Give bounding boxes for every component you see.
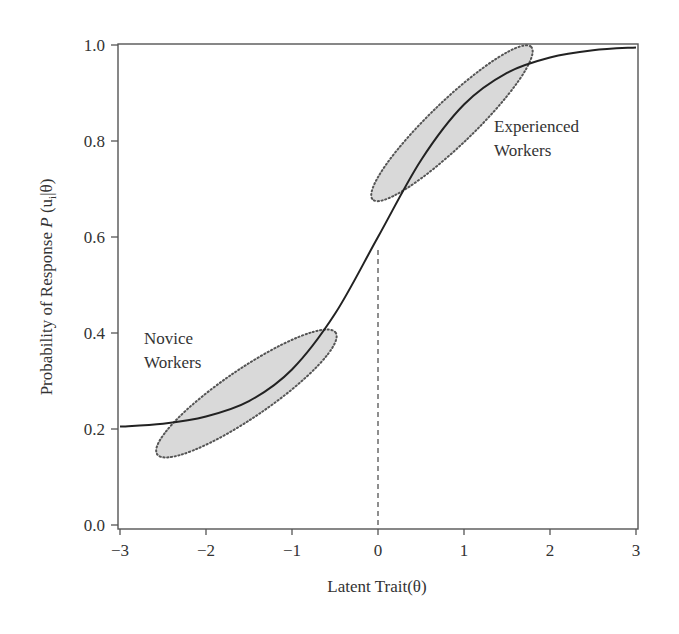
annotation-line: Workers xyxy=(494,141,551,160)
x-tick-label: 2 xyxy=(546,541,555,560)
annotation-novice-workers: NoviceWorkers xyxy=(144,329,201,372)
annotation-line: Workers xyxy=(144,353,201,372)
x-tick-label: 3 xyxy=(632,541,641,560)
x-axis-label: Latent Trait(θ) xyxy=(327,577,426,596)
annotation-line: Experienced xyxy=(494,117,579,136)
x-tick-label: 1 xyxy=(460,541,469,560)
y-tick-label: 0.4 xyxy=(84,324,106,343)
x-tick-label: −2 xyxy=(197,541,215,560)
annotation-line: Novice xyxy=(144,329,193,348)
y-axis-label-close: |θ) xyxy=(37,179,56,196)
y-tick-label: 1.0 xyxy=(84,36,105,55)
x-axis-ticks: −3−2−10123 xyxy=(111,529,640,560)
x-tick-label: −3 xyxy=(111,541,129,560)
y-axis-label-italic-p: P xyxy=(37,217,56,228)
x-tick-label: −1 xyxy=(283,541,301,560)
y-tick-label: 0.0 xyxy=(84,516,105,535)
y-axis-ticks: 0.00.20.40.60.81.0 xyxy=(84,36,118,535)
y-tick-label: 0.8 xyxy=(84,132,105,151)
region-layer xyxy=(144,31,547,474)
y-tick-label: 0.6 xyxy=(84,228,105,247)
y-axis-label-prefix: Probability of Response xyxy=(37,228,56,396)
y-tick-label: 0.2 xyxy=(84,420,105,439)
annotation-experienced-workers: ExperiencedWorkers xyxy=(494,117,579,160)
chart: −3−2−10123 0.00.20.40.60.81.0 NoviceWork… xyxy=(0,0,679,634)
y-axis-label: Probability of Response P (ui|θ) xyxy=(37,179,58,396)
annotation-layer: NoviceWorkersExperiencedWorkers xyxy=(144,117,579,371)
y-axis-label-open: (u xyxy=(37,198,56,217)
x-tick-label: 0 xyxy=(374,541,383,560)
